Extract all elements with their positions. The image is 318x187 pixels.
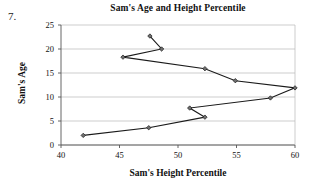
line-chart-plot: [0, 0, 318, 187]
data-markers: [81, 34, 297, 138]
data-line: [83, 36, 295, 135]
axes: [61, 25, 295, 145]
gridlines: [61, 25, 295, 145]
